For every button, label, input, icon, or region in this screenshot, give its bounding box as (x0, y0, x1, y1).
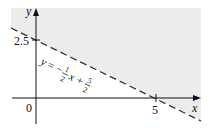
equation-plus: + (75, 73, 86, 87)
y-axis-label: y (25, 4, 32, 18)
equation-frac1-den: 2 (59, 74, 67, 84)
inequality-graph: y x 2.5 0 5 y = − 1 2 x + 5 2 (0, 0, 212, 137)
equation-lhs: y = − (38, 55, 65, 76)
equation-frac2-den: 2 (81, 85, 89, 95)
origin-label: 0 (26, 101, 32, 115)
x-tick-label: 5 (152, 103, 158, 117)
y-tick-label: 2.5 (14, 34, 29, 48)
x-axis-label: x (191, 101, 198, 115)
